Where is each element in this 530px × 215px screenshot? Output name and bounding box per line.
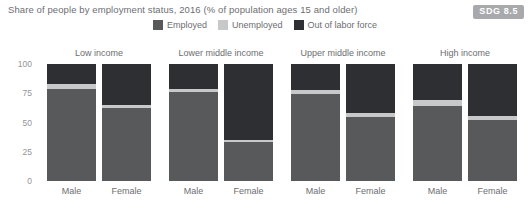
bar-group: Low incomeMaleFemale [38,36,160,215]
sdg-badge: SDG 8.5 [473,5,524,19]
bar-group-title: Low income [38,48,160,58]
bar-group-x-labels: MaleFemale [44,186,154,196]
x-axis-label: Female [224,186,272,196]
bar-group: Upper middle incomeMaleFemale [282,36,404,215]
bar-segment-out-of-labor-force [47,64,95,84]
bar-group-title: Upper middle income [282,48,404,58]
bar-group-bars [166,64,276,181]
x-axis-label: Male [169,186,217,196]
stacked-bar[interactable] [47,64,95,181]
bar-segment-out-of-labor-force [102,64,150,105]
y-axis-tick-label: 25 [23,147,32,157]
legend-item-label: Employed [167,20,207,30]
bar-group: High incomeMaleFemale [404,36,526,215]
legend-item-label: Unemployed [232,20,283,30]
bar-segment-employed [224,142,272,181]
out-of-labor-force-swatch [294,20,304,30]
stacked-bar[interactable] [413,64,461,181]
x-axis-label: Male [413,186,461,196]
bar-segment-employed [413,106,461,181]
bar-segment-employed [47,89,95,181]
chart-legend: EmployedUnemployedOut of labor force [0,20,530,30]
stacked-bar[interactable] [102,64,150,181]
bar-group-bars [288,64,398,181]
stacked-bar[interactable] [291,64,339,181]
y-axis-tick-label: 50 [23,118,32,128]
stacked-bar[interactable] [169,64,217,181]
bar-segment-out-of-labor-force [291,64,339,90]
y-axis: 0255075100 [0,64,36,181]
legend-item-label: Out of labor force [308,20,378,30]
x-axis-label: Male [291,186,339,196]
bar-segment-employed [346,117,394,181]
y-axis-tick-label: 100 [18,59,32,69]
x-axis-label: Male [47,186,95,196]
stacked-bar[interactable] [346,64,394,181]
bar-segment-out-of-labor-force [468,64,516,115]
bar-segment-employed [468,120,516,181]
bar-groups: Low incomeMaleFemaleLower middle incomeM… [38,36,526,215]
bar-segment-employed [291,94,339,181]
chart-plot-area: 0255075100 Low incomeMaleFemaleLower mid… [0,36,530,215]
bar-segment-out-of-labor-force [224,64,272,140]
x-axis-label: Female [102,186,150,196]
legend-item-out-of-labor-force[interactable]: Out of labor force [294,20,378,30]
stacked-bar[interactable] [224,64,272,181]
employed-swatch [153,20,163,30]
legend-item-employed[interactable]: Employed [153,20,207,30]
bar-segment-out-of-labor-force [346,64,394,113]
bar-group-title: High income [404,48,526,58]
x-axis-label: Female [468,186,516,196]
chart-title: Share of people by employment status, 20… [8,4,358,15]
bar-group-x-labels: MaleFemale [166,186,276,196]
bar-segment-employed [169,92,217,181]
stacked-bar[interactable] [468,64,516,181]
bar-segment-employed [102,108,150,181]
y-axis-tick-label: 75 [23,88,32,98]
x-axis-label: Female [346,186,394,196]
legend-item-unemployed[interactable]: Unemployed [218,20,283,30]
bar-group-x-labels: MaleFemale [288,186,398,196]
bar-group-bars [410,64,520,181]
bar-group-x-labels: MaleFemale [410,186,520,196]
bar-group-bars [44,64,154,181]
bar-segment-out-of-labor-force [413,64,461,100]
bar-group-title: Lower middle income [160,48,282,58]
bar-segment-out-of-labor-force [169,64,217,89]
bar-group: Lower middle incomeMaleFemale [160,36,282,215]
y-axis-tick-label: 0 [27,176,32,186]
unemployed-swatch [218,20,228,30]
